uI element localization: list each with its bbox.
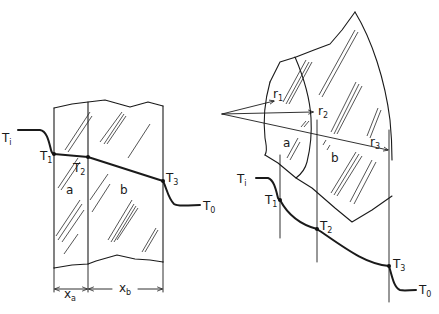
cylinder-label-t3: T3 [392,257,405,273]
cylinder-label-ti: Ti [236,172,247,188]
radius-label-r2: r2 [318,104,328,120]
plane-label-t0: T0 [202,199,215,215]
plane-label-t2: T2 [72,161,85,177]
radius-label-r1: r1 [273,87,283,103]
composite-wall-diagram: Ti T1 T2 T3 T0 a b xa xb [0,0,439,314]
cylindrical-wall-panel: r1 r2 r3 a b [222,12,431,302]
cylinder-layer-a-label: a [283,136,290,150]
cylinder-layer-b-label: b [331,151,339,165]
cylinder-label-t1: T1 [264,193,277,209]
cylinder-label-t2: T2 [319,219,332,235]
plane-layer-b-label: b [120,183,128,197]
plane-label-ti: Ti [1,131,12,147]
plane-label-t3: T3 [165,171,178,187]
plane-wall-panel: Ti T1 T2 T3 T0 a b xa xb [1,100,215,303]
plane-layer-a-label: a [66,183,73,197]
radius-label-r3: r3 [370,135,380,151]
plane-thickness-xb: xb [119,281,131,297]
cylinder-wall-outline [264,12,392,302]
cylinder-label-t0: T0 [418,283,431,299]
